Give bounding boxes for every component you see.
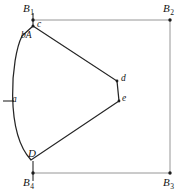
vertex-dot-c	[32, 25, 35, 28]
geometric-figure: B1 B2 B3 B4 c bA a d e D	[0, 0, 186, 196]
corner-label-b1-sub: 1	[30, 8, 34, 17]
corner-label-b2: B2	[163, 3, 174, 17]
corner-label-b2-sub: 2	[170, 8, 174, 17]
frame-corner-dots	[31, 18, 171, 174]
point-label-a: a	[12, 95, 17, 105]
point-label-e: e	[122, 94, 126, 104]
corner-label-b1-base: B	[23, 2, 30, 14]
corner-label-b2-base: B	[163, 2, 170, 14]
point-label-d: d	[121, 74, 126, 84]
corner-dot-bottom-left	[31, 171, 34, 174]
corner-label-b3-base: B	[163, 176, 170, 188]
vertex-dot-e	[118, 100, 121, 103]
corner-label-b4: B4	[23, 177, 34, 191]
corner-label-b4-sub: 4	[30, 182, 34, 191]
corner-label-b1: B1	[23, 3, 34, 17]
point-label-D: D	[28, 148, 36, 159]
corner-dot-top-left	[31, 18, 34, 21]
region-vertex-dots	[32, 25, 121, 103]
point-label-ba: bA	[21, 31, 32, 41]
bounded-region	[13, 26, 119, 160]
region-outline-path	[13, 26, 119, 160]
corner-label-b4-base: B	[23, 176, 30, 188]
corner-label-b3: B3	[163, 177, 174, 191]
reference-frame	[33, 20, 170, 173]
corner-dot-top-right	[168, 18, 171, 21]
corner-dot-bottom-right	[168, 171, 171, 174]
point-label-c: c	[37, 20, 41, 30]
vertex-dot-d	[116, 80, 119, 83]
corner-label-b3-sub: 3	[170, 182, 174, 191]
